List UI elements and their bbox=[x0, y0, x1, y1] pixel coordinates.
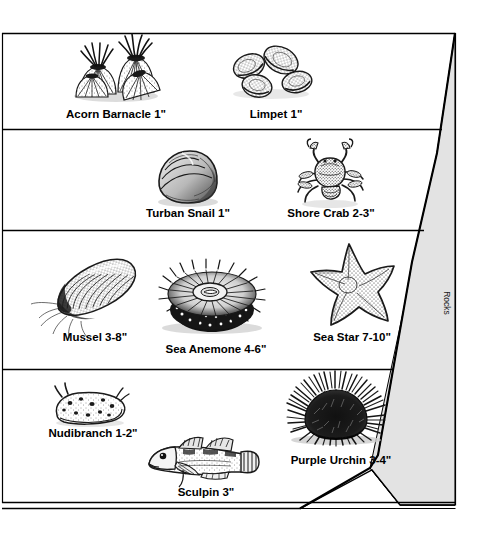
rocks-label: Rocks bbox=[442, 291, 452, 315]
purple-urchin-label: Purple Urchin 3-4" bbox=[291, 454, 392, 466]
sculpin-label: Sculpin 3" bbox=[178, 486, 235, 498]
mussel-label: Mussel 3-8" bbox=[63, 331, 127, 343]
sea-anemone-label: Sea Anemone 4-6" bbox=[166, 343, 267, 355]
intertidal-zone-diagram: Rocks bbox=[0, 0, 481, 540]
shore-crab-label: Shore Crab 2-3" bbox=[287, 207, 374, 219]
sea-star-label: Sea Star 7-10" bbox=[313, 331, 391, 343]
svg-text:Rocks: Rocks bbox=[442, 291, 452, 315]
acorn-barnacle-label: Acorn Barnacle 1" bbox=[66, 108, 166, 120]
turban-snail-label: Turban Snail 1" bbox=[146, 207, 230, 219]
nudibranch-label: Nudibranch 1-2" bbox=[48, 427, 137, 439]
limpet-label: Limpet 1" bbox=[250, 108, 303, 120]
